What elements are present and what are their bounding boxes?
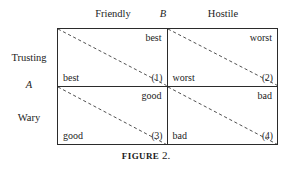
- row-header-wary: Wary: [1, 112, 57, 124]
- matrix-cell-3: good good (3): [58, 87, 168, 145]
- payoff-upper-right: bad: [258, 90, 272, 101]
- payoff-upper-right: best: [145, 32, 161, 43]
- cell-index-label: (4): [262, 131, 273, 142]
- payoff-lower-left: good: [63, 130, 83, 141]
- payoff-lower-left: bad: [173, 130, 187, 141]
- payoff-lower-left: worst: [173, 72, 195, 83]
- matrix-cell-1: best best (1): [58, 29, 168, 86]
- row-player-label: A: [1, 79, 57, 91]
- figure-caption-number: 2.: [162, 149, 170, 161]
- matrix-row-wary: good good (3) bad bad (4): [58, 87, 277, 145]
- cell-index-label: (2): [262, 73, 273, 84]
- cell-index-label: (1): [151, 73, 162, 84]
- figure-caption: FIGURE 2.: [0, 149, 292, 162]
- payoff-upper-right: good: [142, 90, 162, 101]
- column-header-hostile: Hostile: [173, 8, 273, 20]
- figure-container: Friendly B Hostile Trusting A Wary best …: [0, 0, 292, 170]
- payoff-lower-left: best: [63, 72, 79, 83]
- cell-index-label: (3): [151, 131, 162, 142]
- payoff-matrix: best best (1) worst worst (2) good good: [57, 28, 278, 145]
- matrix-cell-4: bad bad (4): [168, 87, 278, 145]
- payoff-upper-right: worst: [250, 32, 272, 43]
- figure-caption-word: FIGURE: [122, 151, 159, 161]
- matrix-cell-2: worst worst (2): [168, 29, 278, 86]
- row-header-trusting: Trusting: [1, 52, 57, 64]
- matrix-row-trusting: best best (1) worst worst (2): [58, 29, 277, 87]
